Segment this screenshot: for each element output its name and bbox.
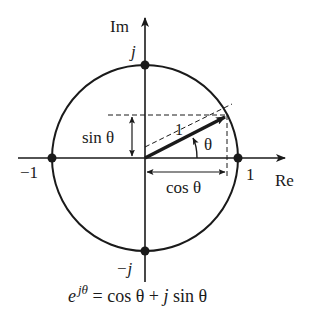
euler-formula: ejθ = cos θ + j sin θ: [68, 282, 207, 306]
label-minus-j: −j: [116, 259, 132, 278]
formula-base: e: [68, 286, 76, 306]
angle-arc-arrow: [193, 138, 197, 158]
point-1: [234, 154, 243, 163]
label-minus-1: −1: [20, 163, 38, 182]
point-j: [141, 61, 150, 70]
formula-rhs-1: = cos θ +: [88, 286, 163, 306]
formula-exponent: jθ: [76, 282, 89, 297]
unit-vector-arrow: [145, 117, 225, 158]
formula-rhs-j: j: [161, 286, 168, 306]
angle-label: θ: [204, 135, 212, 154]
radius-length-label: 1: [175, 121, 183, 138]
formula-rhs-2: sin θ: [168, 286, 207, 306]
imaginary-axis-label: Im: [110, 17, 129, 36]
radius-dimension-dashed: [145, 104, 232, 147]
label-1: 1: [246, 165, 255, 184]
point-minus-1: [48, 154, 57, 163]
cos-theta-label: cos θ: [166, 178, 201, 197]
real-axis-label: Re: [275, 171, 294, 190]
sin-theta-label: sin θ: [82, 128, 114, 147]
point-minus-j: [141, 247, 150, 256]
label-j: j: [129, 42, 136, 61]
unit-circle-diagram: Im Re j −j −1 1 1 θ sin θ cos θ ejθ = co…: [0, 0, 315, 324]
